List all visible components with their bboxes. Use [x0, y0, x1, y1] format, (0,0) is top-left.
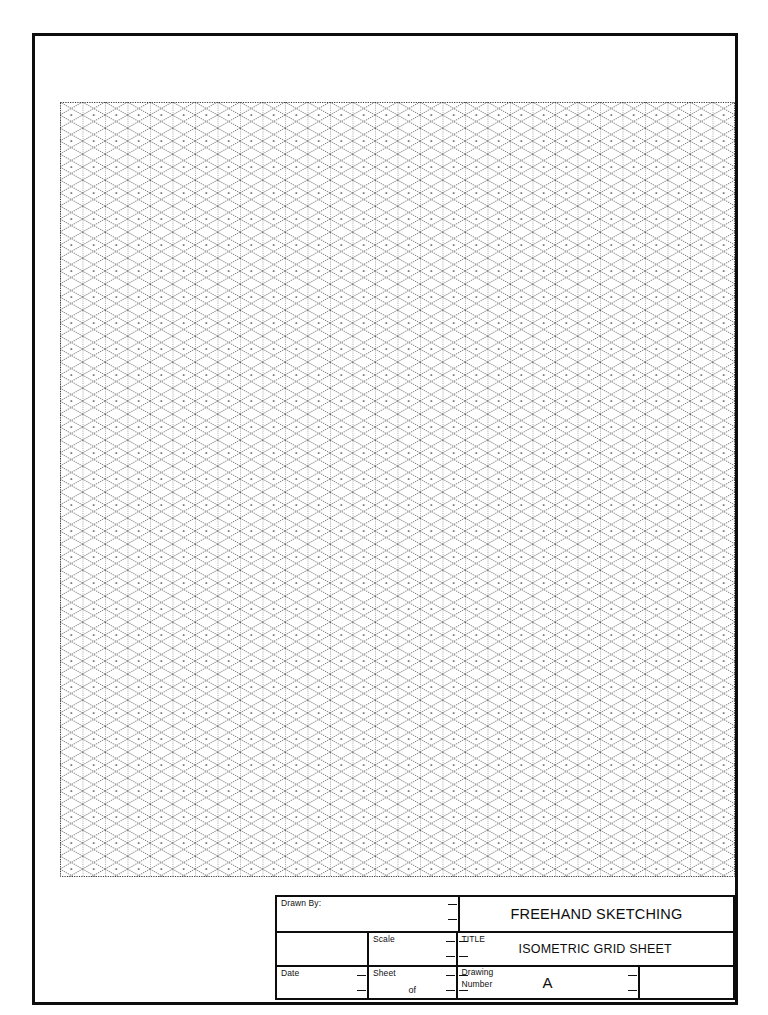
drawing-number-value: A [542, 974, 552, 991]
sheet-label: Sheet [369, 967, 456, 978]
drawn-by-cell[interactable]: Drawn By: [277, 897, 458, 931]
tick-mark [448, 919, 457, 920]
drawing-number-cell[interactable]: Drawing Number A [456, 967, 638, 998]
sheet-of-label: of [408, 985, 416, 995]
title-block: Drawn By: FREEHAND SKETCHING Scale [275, 895, 735, 1000]
tick-mark [459, 956, 468, 957]
tick-mark [446, 975, 455, 976]
tick-mark [446, 990, 455, 991]
tick-mark [459, 975, 468, 976]
title-block-row-scale: Scale TITLE ISOMETRIC GRID SHEET [277, 931, 733, 965]
tick-mark [446, 941, 455, 942]
tick-mark [459, 990, 468, 991]
tick-mark [459, 941, 468, 942]
main-title-cell: FREEHAND SKETCHING [458, 897, 733, 931]
drawing-sheet-page: Drawn By: FREEHAND SKETCHING Scale [0, 0, 768, 1015]
title-cell: TITLE ISOMETRIC GRID SHEET [456, 933, 734, 965]
drawn-by-label: Drawn By: [277, 897, 458, 908]
tick-mark [628, 990, 637, 991]
tick-mark [357, 975, 366, 976]
isometric-grid-area [60, 102, 735, 877]
sheet-cell[interactable]: Sheet of [367, 967, 456, 998]
tick-mark [628, 975, 637, 976]
title-block-row-drawn-by: Drawn By: FREEHAND SKETCHING [277, 897, 733, 931]
scale-cell[interactable]: Scale [367, 933, 456, 965]
tick-mark [446, 956, 455, 957]
date-label: Date [277, 967, 367, 978]
date-cell[interactable]: Date [277, 967, 367, 998]
scale-label: Scale [369, 933, 456, 944]
main-title-text: FREEHAND SKETCHING [511, 906, 683, 922]
sub-title-text: ISOMETRIC GRID SHEET [519, 942, 672, 956]
blank-cell[interactable] [277, 933, 367, 965]
title-block-row-date: Date Sheet of Drawing Number A [277, 965, 733, 998]
isometric-grid-svg [60, 102, 735, 877]
tick-mark [357, 990, 366, 991]
revision-cell[interactable] [638, 967, 734, 998]
tick-mark [448, 904, 457, 905]
